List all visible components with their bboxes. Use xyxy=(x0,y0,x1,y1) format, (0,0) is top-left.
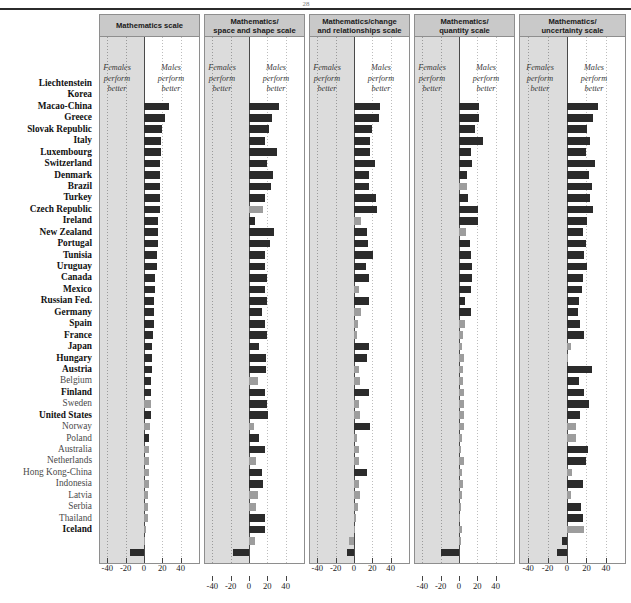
bar xyxy=(144,354,152,362)
country-label: Netherlands xyxy=(0,455,96,466)
chart-figure: 28 LiechtensteinKoreaMacao-ChinaGreeceSl… xyxy=(0,0,631,603)
bar xyxy=(459,446,461,454)
bar-row xyxy=(520,135,625,146)
panel-title-line: uncertainty scale xyxy=(541,26,603,35)
bar-row xyxy=(205,261,304,272)
bar-row xyxy=(310,101,409,112)
bar xyxy=(354,446,359,454)
country-label: Liechtenstein xyxy=(0,78,96,89)
bar-row xyxy=(310,112,409,123)
bar xyxy=(459,514,460,522)
panel-title-line: quantity scale xyxy=(439,26,490,35)
bar xyxy=(567,263,587,271)
bar xyxy=(459,286,471,294)
country-label: Uruguay xyxy=(0,261,96,272)
bar-row xyxy=(415,353,514,364)
bar xyxy=(354,194,376,202)
bar-row xyxy=(310,501,409,512)
bar xyxy=(354,217,361,225)
bar xyxy=(249,469,262,477)
bar-row xyxy=(310,227,409,238)
bar-row xyxy=(100,547,199,558)
bar-row xyxy=(205,444,304,455)
country-label: Korea xyxy=(0,89,96,100)
bar xyxy=(144,228,158,236)
top-rule xyxy=(0,8,631,10)
bar xyxy=(567,125,587,133)
bar xyxy=(459,503,461,511)
bar-row xyxy=(520,261,625,272)
bar xyxy=(144,366,152,374)
bar xyxy=(249,354,266,362)
bar-row xyxy=(520,433,625,444)
bar-row xyxy=(310,341,409,352)
bar xyxy=(567,526,584,534)
country-label: Greece xyxy=(0,112,96,123)
bar xyxy=(459,320,465,328)
panel-title-line: Mathematics/change xyxy=(318,17,402,26)
bar xyxy=(144,400,151,408)
bar-row xyxy=(100,330,199,341)
country-label: Brazil xyxy=(0,181,96,192)
bar-row xyxy=(310,547,409,558)
bar xyxy=(354,137,370,145)
bar-row xyxy=(415,536,514,547)
bar-row xyxy=(520,181,625,192)
bar xyxy=(459,469,462,477)
bar-row xyxy=(100,158,199,169)
bar xyxy=(459,354,464,362)
bar-row xyxy=(205,318,304,329)
country-label: Luxembourg xyxy=(0,147,96,158)
bar-row xyxy=(415,135,514,146)
bar-row xyxy=(520,295,625,306)
bar-row xyxy=(310,284,409,295)
bar-row xyxy=(310,204,409,215)
bar-row xyxy=(310,135,409,146)
annotation-line: better xyxy=(414,84,455,95)
bar xyxy=(249,320,265,328)
country-label: Canada xyxy=(0,272,96,283)
bar-row xyxy=(100,376,199,387)
bar xyxy=(144,389,151,397)
annotation-line: perform xyxy=(358,74,404,85)
country-label: Indonesia xyxy=(0,478,96,489)
bar-row xyxy=(100,124,199,135)
bar-row xyxy=(415,284,514,295)
bar xyxy=(144,183,160,191)
bar xyxy=(567,343,571,351)
bar-row xyxy=(520,250,625,261)
bar-row xyxy=(100,478,199,489)
bar-row xyxy=(100,284,199,295)
bar-row xyxy=(100,204,199,215)
bar-row xyxy=(205,204,304,215)
annotation-line: perform xyxy=(253,74,299,85)
bar xyxy=(354,286,359,294)
bar xyxy=(459,251,471,259)
males-better-annotation: Malesperformbetter xyxy=(253,63,299,95)
bar-row xyxy=(520,501,625,512)
bar xyxy=(354,331,357,339)
bar-row xyxy=(520,215,625,226)
bar xyxy=(354,148,370,156)
bar xyxy=(459,331,463,339)
bar xyxy=(567,457,586,465)
country-label: Ireland xyxy=(0,215,96,226)
bar-row xyxy=(310,398,409,409)
country-label: United States xyxy=(0,410,96,421)
annotation-line: perform xyxy=(414,74,455,85)
bar xyxy=(249,160,267,168)
bar xyxy=(459,537,461,545)
bar-row xyxy=(205,170,304,181)
bar xyxy=(459,125,475,133)
panel-title-line: space and shape scale xyxy=(213,26,295,35)
bar xyxy=(354,457,359,465)
bar-row xyxy=(520,170,625,181)
bar xyxy=(249,377,258,385)
bar xyxy=(354,411,360,419)
bar xyxy=(562,537,567,545)
bar xyxy=(459,137,483,145)
bar-row xyxy=(100,341,199,352)
bar xyxy=(567,389,584,397)
bar-row xyxy=(205,364,304,375)
annotation-line: better xyxy=(571,84,617,95)
